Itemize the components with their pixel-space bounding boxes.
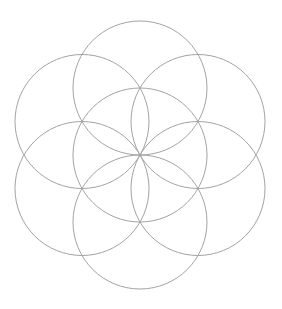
seed-of-life-figure bbox=[0, 0, 282, 309]
